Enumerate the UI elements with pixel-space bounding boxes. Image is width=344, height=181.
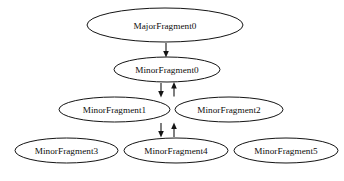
edge-minor4-to-minor2: [171, 123, 177, 138]
arrowhead-up-icon: [171, 123, 177, 130]
node-label: MinorFragment1: [83, 105, 147, 115]
edge-minor0-to-minor1: [158, 83, 164, 98]
fragment-graph-diagram: MajorFragment0 MinorFragment0 MinorFragm…: [0, 0, 344, 181]
graph-canvas: MajorFragment0 MinorFragment0 MinorFragm…: [0, 0, 344, 181]
edge-major0-to-minor0: [163, 43, 169, 58]
edge-minor2-to-minor0: [171, 82, 177, 97]
node-label: MinorFragment2: [197, 105, 261, 115]
edge-minor1-to-minor4: [158, 123, 164, 138]
node-minor-fragment-0[interactable]: MinorFragment0: [114, 57, 220, 82]
node-label: MinorFragment0: [135, 65, 199, 75]
node-minor-fragment-4[interactable]: MinorFragment4: [124, 138, 228, 163]
node-label: MinorFragment4: [144, 146, 208, 156]
arrowhead-down-icon: [158, 131, 164, 138]
node-minor-fragment-3[interactable]: MinorFragment3: [15, 138, 118, 163]
node-minor-fragment-5[interactable]: MinorFragment5: [234, 138, 338, 163]
arrowhead-down-icon: [158, 91, 164, 98]
node-label: MajorFragment0: [134, 21, 197, 31]
node-minor-fragment-1[interactable]: MinorFragment1: [59, 97, 170, 122]
arrowhead-up-icon: [171, 82, 177, 89]
node-label: MinorFragment3: [35, 146, 99, 156]
node-minor-fragment-2[interactable]: MinorFragment2: [175, 97, 283, 122]
node-major-fragment-0[interactable]: MajorFragment0: [87, 8, 243, 42]
node-label: MinorFragment5: [254, 146, 318, 156]
